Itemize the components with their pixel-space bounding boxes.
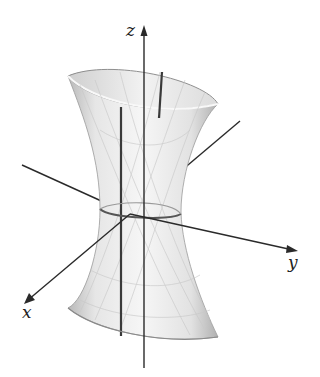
y-axis-label: y bbox=[287, 252, 298, 272]
hyperboloid-diagram: z y x bbox=[0, 0, 320, 377]
z-axis-label: z bbox=[125, 20, 136, 40]
x-axis-label: x bbox=[22, 302, 32, 322]
z-axis-arrowhead bbox=[141, 25, 148, 36]
